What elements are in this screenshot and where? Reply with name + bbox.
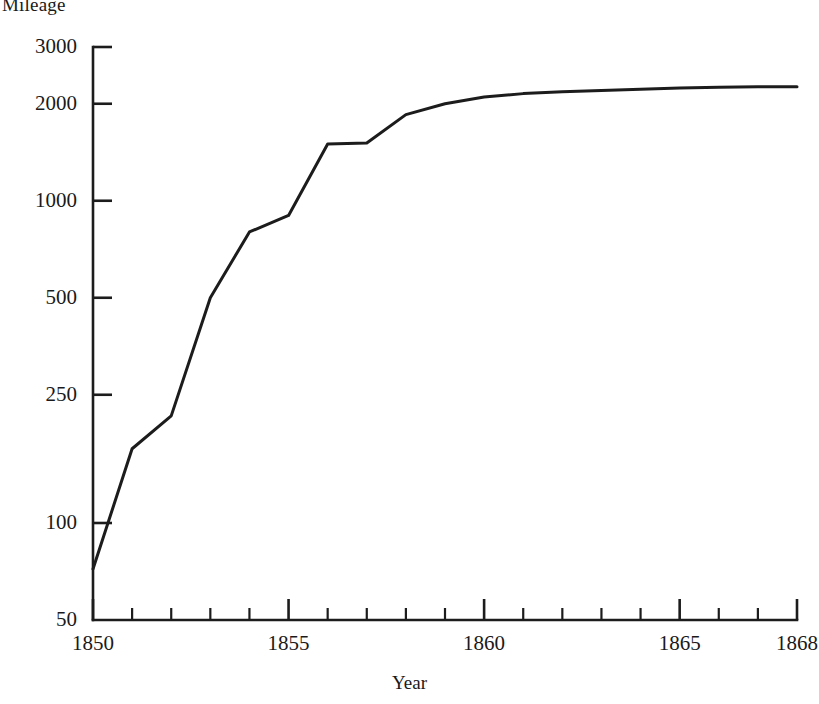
y-tick-label: 250 bbox=[0, 384, 77, 405]
y-tick-label: 100 bbox=[0, 512, 77, 533]
x-axis-title: Year bbox=[0, 672, 819, 694]
y-tick-label: 3000 bbox=[0, 36, 77, 57]
data-series-line bbox=[93, 87, 797, 569]
x-tick-label: 1850 bbox=[48, 633, 138, 654]
y-tick-label: 50 bbox=[0, 609, 77, 630]
x-tick-label: 1860 bbox=[439, 633, 529, 654]
x-tick-label: 1855 bbox=[244, 633, 334, 654]
y-tick-label: 500 bbox=[0, 287, 77, 308]
chart-figure: Mileage 30002000100050025010050 18501855… bbox=[0, 0, 819, 704]
chart-plot-area bbox=[0, 0, 819, 704]
x-tick-label: 1868 bbox=[752, 633, 819, 654]
x-tick-label: 1865 bbox=[635, 633, 725, 654]
y-tick-label: 2000 bbox=[0, 93, 77, 114]
y-tick-label: 1000 bbox=[0, 190, 77, 211]
